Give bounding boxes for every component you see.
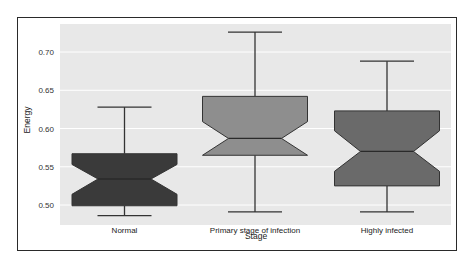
y-tick-label: 0.50 [38, 201, 54, 210]
y-tick-label: 0.65 [38, 86, 54, 95]
x-axis-label: Stage [245, 231, 267, 241]
x-category-label: Highly infected [361, 226, 413, 235]
x-category-label: Normal [112, 226, 138, 235]
y-axis-ticks: 0.500.550.600.650.70 [38, 48, 54, 210]
y-tick-label: 0.60 [38, 125, 54, 134]
y-axis-label: Energy [22, 106, 32, 134]
y-tick-label: 0.55 [38, 163, 54, 172]
notched-box [203, 96, 308, 155]
y-tick-label: 0.70 [38, 48, 54, 57]
boxplot-chart: 0.500.550.600.650.70 NormalPrimary stage… [0, 0, 473, 266]
